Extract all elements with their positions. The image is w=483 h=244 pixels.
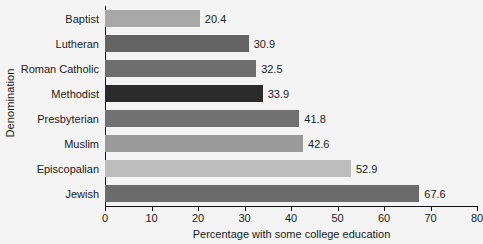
bar [105,85,263,102]
x-axis-tick-label: 10 [145,212,157,224]
bar-row: Baptist20.4 [105,7,477,31]
category-label: Methodist [51,82,99,106]
x-axis-tick [291,206,292,211]
bar [105,110,299,127]
x-axis-tick-label: 70 [424,212,436,224]
category-label: Roman Catholic [21,57,99,81]
bar [105,10,200,27]
bar-value-label: 32.5 [261,57,282,81]
plot-area: Baptist20.4Lutheran30.9Roman Catholic32.… [105,6,477,206]
category-label: Baptist [65,7,99,31]
bar-row: Methodist33.9 [105,82,477,106]
bar [105,160,351,177]
x-axis-tick-label: 0 [102,212,108,224]
x-axis-tick [431,206,432,211]
x-axis-tick-label: 50 [331,212,343,224]
category-label: Muslim [64,132,99,156]
x-axis-tick [152,206,153,211]
category-label: Lutheran [56,32,99,56]
bar-value-label: 20.4 [205,7,226,31]
x-axis-tick-label: 30 [238,212,250,224]
bar [105,135,303,152]
bar-row: Lutheran30.9 [105,32,477,56]
y-axis-title: Denomination [0,0,20,206]
x-axis-tick [384,206,385,211]
bar-row: Muslim42.6 [105,132,477,156]
bar-value-label: 30.9 [254,32,275,56]
bar-value-label: 33.9 [268,82,289,106]
x-axis-title: Percentage with some college education [105,228,478,240]
y-axis-title-text: Denomination [4,68,16,137]
bar [105,60,256,77]
bar-value-label: 67.6 [424,182,445,206]
category-label: Episcopalian [37,157,99,181]
bar-value-label: 52.9 [356,157,377,181]
bar-row: Roman Catholic32.5 [105,57,477,81]
x-axis-tick-label: 80 [471,212,483,224]
category-label: Presbyterian [37,107,99,131]
bar-value-label: 42.6 [308,132,329,156]
bar-row: Jewish67.6 [105,182,477,206]
x-axis-tick [338,206,339,211]
bar [105,35,249,52]
bar-chart: Denomination Baptist20.4Lutheran30.9Roma… [0,0,483,244]
x-axis-tick [245,206,246,211]
x-axis-tick-label: 60 [378,212,390,224]
bar-row: Presbyterian41.8 [105,107,477,131]
x-axis-tick-label: 20 [192,212,204,224]
bar [105,185,419,202]
category-label: Jewish [65,182,99,206]
x-axis-tick [105,206,106,211]
x-axis-tick [198,206,199,211]
bar-row: Episcopalian52.9 [105,157,477,181]
x-axis-tick-label: 40 [285,212,297,224]
bar-value-label: 41.8 [304,107,325,131]
x-axis-tick [477,206,478,211]
